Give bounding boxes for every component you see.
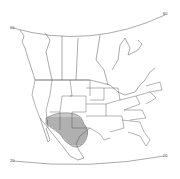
latitude-60-arc bbox=[13, 15, 165, 36]
label-top-left: 60 bbox=[10, 26, 14, 30]
range-map bbox=[0, 0, 180, 179]
label-bottom-right: 20 bbox=[163, 154, 167, 158]
label-bottom-left: 20 bbox=[10, 159, 14, 163]
latitude-20-arc bbox=[13, 156, 164, 165]
label-top-right: 60 bbox=[163, 12, 167, 16]
canada-outline bbox=[20, 30, 155, 95]
us-states bbox=[32, 80, 162, 146]
